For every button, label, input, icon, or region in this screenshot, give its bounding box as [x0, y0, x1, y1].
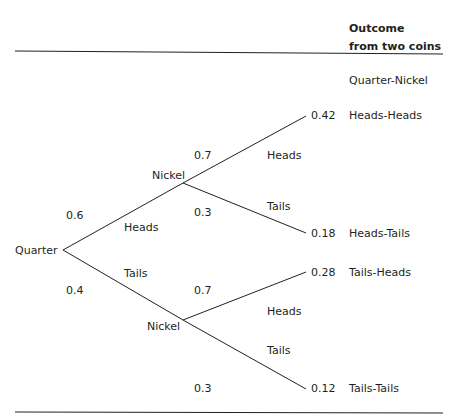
outcome-label: Heads-Heads [349, 109, 422, 122]
header-line1: Outcome [349, 22, 404, 35]
lower-nickel-tails-label: Tails [267, 344, 290, 357]
outcome-prob: 0.12 [311, 382, 336, 395]
outcome-prob: 0.18 [311, 227, 336, 240]
lower-nickel-label: Nickel [147, 320, 180, 333]
lower-nickel-heads-prob: 0.7 [194, 284, 212, 297]
outcome-prob: 0.28 [311, 266, 336, 279]
upper-nickel-label: Nickel [152, 169, 185, 182]
lower-nickel-heads-label: Heads [267, 305, 302, 318]
outcome-label: Heads-Tails [349, 227, 410, 240]
bottom-rule [15, 412, 443, 413]
upper-nickel-tails-label: Tails [267, 200, 290, 213]
root-label: Quarter [15, 244, 58, 257]
upper-nickel-heads-prob: 0.7 [194, 149, 212, 162]
lower-nickel-tails-prob: 0.3 [194, 382, 212, 395]
root-tails-label: Tails [124, 267, 147, 280]
root-heads-prob: 0.6 [66, 209, 84, 222]
upper-nickel-tails-prob: 0.3 [194, 206, 212, 219]
root-heads-label: Heads [124, 221, 159, 234]
outcome-label: Tails-Heads [349, 266, 411, 279]
upper-nickel-heads-label: Heads [267, 149, 302, 162]
outcome-prob: 0.42 [311, 109, 336, 122]
column-label: Quarter-Nickel [349, 74, 428, 87]
root-tails-prob: 0.4 [66, 284, 84, 297]
outcome-label: Tails-Tails [349, 382, 399, 395]
header-line2: from two coins [349, 40, 441, 53]
